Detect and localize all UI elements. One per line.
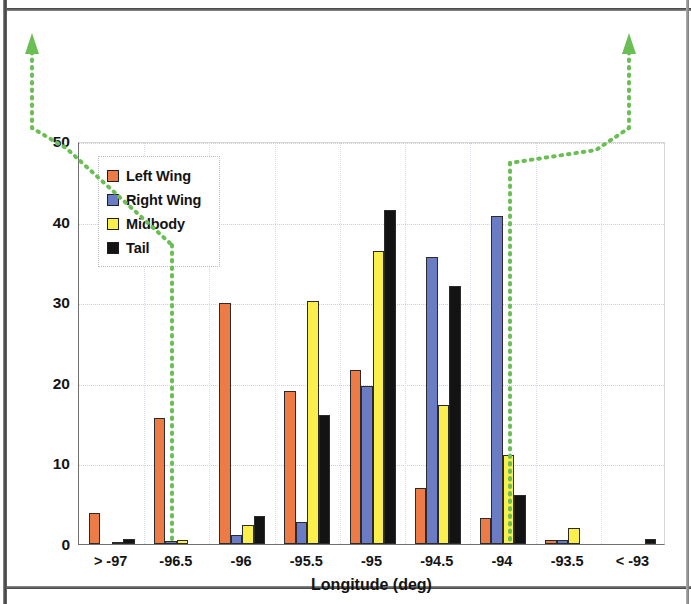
bar [545, 540, 557, 544]
bar [568, 528, 580, 544]
x-tick-label: < -93 [600, 553, 665, 569]
bar [154, 418, 166, 544]
horizontal-gridline [79, 143, 664, 144]
legend-label: Tail [126, 240, 150, 256]
bar [645, 539, 657, 544]
bar [373, 251, 385, 544]
vertical-gridline [470, 143, 471, 544]
vertical-gridline [405, 143, 406, 544]
legend-swatch-midbody [107, 218, 119, 230]
bar [319, 415, 331, 544]
legend-swatch-right-wing [107, 194, 119, 206]
bar [89, 513, 101, 544]
bar [219, 303, 231, 544]
legend-label: Right Wing [126, 192, 201, 208]
bar [231, 535, 243, 544]
x-tick-label: -94 [469, 553, 534, 569]
y-tick-label: 10 [26, 455, 70, 473]
bar [503, 455, 515, 544]
bar [242, 525, 254, 544]
bar [307, 301, 319, 544]
scan-border-top [7, 8, 691, 11]
bar [557, 540, 569, 544]
bar [254, 516, 266, 544]
bar [350, 370, 362, 544]
legend-label: Left Wing [126, 168, 191, 184]
legend-item: Tail [107, 236, 211, 260]
vertical-gridline [536, 143, 537, 544]
bar [514, 495, 526, 544]
legend: Left WingRight WingMidbodyTail [98, 156, 220, 267]
bar [438, 405, 450, 544]
horizontal-gridline [79, 304, 664, 305]
x-tick-label: -96 [208, 553, 273, 569]
x-tick-label: -95 [339, 553, 404, 569]
vertical-gridline [601, 143, 602, 544]
bar [491, 216, 503, 544]
bar [284, 391, 296, 544]
x-tick-label: -94.5 [404, 553, 469, 569]
bar [165, 541, 177, 544]
vertical-gridline [275, 143, 276, 544]
legend-item: Midbody [107, 212, 211, 236]
y-tick-label: 30 [26, 294, 70, 312]
bar [123, 539, 135, 544]
bar [361, 386, 373, 544]
y-tick-label: 20 [26, 375, 70, 393]
legend-swatch-tail [107, 242, 119, 254]
y-tick-label: 40 [26, 214, 70, 232]
legend-item: Left Wing [107, 164, 211, 188]
bar [449, 286, 461, 544]
bar [296, 522, 308, 544]
scan-border-left [3, 0, 7, 604]
vertical-gridline [340, 143, 341, 544]
x-axis-title: Longitude (deg) [78, 576, 665, 594]
scan-border-right [686, 0, 689, 604]
bar [415, 488, 427, 544]
x-tick-label: > -97 [78, 553, 143, 569]
y-tick-label: 0 [26, 536, 70, 554]
bar [384, 210, 396, 544]
legend-swatch-left-wing [107, 170, 119, 182]
bar [426, 257, 438, 544]
x-tick-label: -95.5 [274, 553, 339, 569]
bar [480, 518, 492, 544]
bar [177, 540, 189, 544]
legend-label: Midbody [126, 216, 185, 232]
legend-item: Right Wing [107, 188, 211, 212]
x-tick-label: -96.5 [143, 553, 208, 569]
bar [112, 542, 124, 544]
x-tick-label: -93.5 [535, 553, 600, 569]
y-tick-label: 50 [26, 133, 70, 151]
chart-page: Percent of Debris per Bin 01020304050 > … [0, 0, 691, 604]
